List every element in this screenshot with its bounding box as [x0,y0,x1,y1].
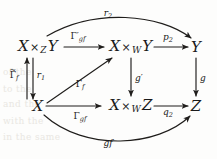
node-top-right: Y [191,40,201,55]
accented-gamma: ~Γ [10,71,16,80]
label-bottom-left-arrow: Γgf [74,112,87,122]
prime-icon: ′ [141,73,143,83]
label-glyph: gf [103,138,112,148]
label-subscript: f [82,83,84,91]
label-bottom-curve-gf: gf [103,139,112,148]
node-top-left-base: X [18,37,29,55]
node-top-middle-base: X [110,37,121,55]
tilde-accent-icon: ~ [9,67,16,75]
node-bottom-right-base: Z [191,97,202,115]
label-diagonal-arrow: Γf [76,80,85,90]
label-subscript: 2 [169,111,173,119]
label-glyph: g [200,73,206,83]
node-bottom-middle-tail: Z [142,96,153,114]
times-icon: × [29,41,40,54]
node-top-left-sub: Z [40,45,47,55]
node-top-left-tail: Y [48,37,58,55]
label-middle-vertical: g′ [135,74,143,83]
node-top-middle: X×WY [110,39,153,55]
node-top-right-base: Y [191,38,201,56]
node-bottom-left: X [33,99,44,114]
node-bottom-left-base: X [33,97,44,115]
node-top-middle-tail: Y [142,37,152,55]
arrow-bottom-curve-gf [44,115,190,141]
label-subscript: f [16,74,18,82]
times-icon: × [120,41,131,54]
node-bottom-right: Z [191,99,202,114]
label-subscript: gf [80,115,87,123]
label-subscript: gf [79,35,86,43]
label-subscript: 2 [169,36,173,44]
node-top-middle-sub: W [132,45,142,55]
node-bottom-middle-base: X [109,96,120,114]
node-bottom-middle-sub: W [132,104,142,114]
arrows-layer: Y (label r2) --> Z (label gf) --> X x_W … [0,0,217,159]
label-top-curve-r2: r2 [104,9,112,19]
times-icon: × [120,100,131,113]
label-subscript: 2 [108,12,112,20]
label-left-down-arrow: r1 [37,71,45,81]
label-top-left-arrow: Γ′gf [71,32,86,42]
label-top-right-arrow: p2 [163,33,173,43]
label-subscript: 1 [41,74,45,82]
label-right-vertical: g [200,74,206,83]
node-top-left: X×ZY [18,39,58,55]
label-bottom-right-arrow: q2 [163,108,173,118]
node-bottom-middle: X×WZ [109,98,152,114]
commutative-diagram: of the to the and the with the in the sa… [0,0,217,159]
label-left-up-arrow: ~Γf [10,71,19,81]
